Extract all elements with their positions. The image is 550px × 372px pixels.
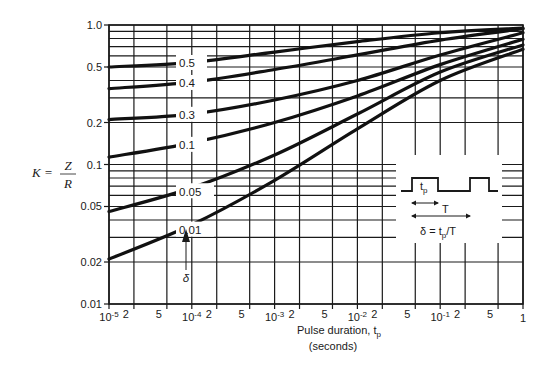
x-tick-label: 5	[487, 308, 493, 320]
x-tick-label: 5	[321, 308, 327, 320]
x-tick-label: 2	[206, 308, 212, 320]
y-tick-label: 0.5	[87, 61, 102, 73]
x-tick-label: 10-4	[182, 310, 202, 323]
transient-thermal-impedance-chart: 0.50.40.30.10.050.01 10-52510-42510-3251…	[0, 0, 550, 372]
x-tick-label: 10-5	[99, 310, 119, 323]
pulse-train-inset: tp T δ = tp/T	[396, 155, 502, 243]
delta-arrow-label: δ	[183, 272, 190, 284]
curve-label-delta-0.05: 0.05	[179, 186, 201, 198]
ylabel-z: Z	[64, 158, 72, 173]
x-tick-label: 2	[454, 308, 460, 320]
y-tick-label: 0.2	[87, 117, 102, 129]
x-tick-label: 5	[156, 308, 162, 320]
inset-period-label: T	[442, 203, 449, 215]
xlabel-line1: Pulse duration, tp	[297, 324, 382, 339]
curve-label-delta-0.3: 0.3	[179, 109, 195, 121]
ylabel-r: R	[63, 176, 72, 191]
x-tick-label: 5	[404, 308, 410, 320]
xlabel-line2: (seconds)	[309, 340, 357, 352]
x-tick-label: 2	[371, 308, 377, 320]
curve-label-delta-0.01: 0.01	[179, 224, 201, 236]
curve-label-delta-0.5: 0.5	[179, 57, 195, 69]
curve-label-delta-0.4: 0.4	[179, 77, 196, 89]
y-tick-label: 0.1	[87, 159, 102, 171]
y-tick-label: 0.01	[81, 298, 102, 310]
x-tick-label: 1	[520, 312, 526, 324]
x-tick-label: 5	[239, 308, 245, 320]
x-axis-label: Pulse duration, tp (seconds)	[297, 324, 382, 352]
y-tick-label: 0.02	[81, 256, 102, 268]
curve-label-delta-0.1: 0.1	[179, 139, 195, 151]
curve-labels: 0.50.40.30.10.050.01	[176, 55, 214, 237]
x-tick-label: 10-3	[265, 310, 285, 323]
x-axis-ticks: 10-52510-42510-32510-22510-1251	[99, 304, 526, 324]
ylabel-k: K =	[31, 165, 53, 180]
x-tick-label: 10-1	[431, 310, 451, 323]
x-tick-label: 10-2	[348, 310, 368, 323]
x-tick-label: 2	[288, 308, 294, 320]
y-tick-label: 1.0	[87, 19, 102, 31]
y-tick-label: 0.05	[81, 200, 102, 212]
y-axis-label: K = Z R	[31, 158, 76, 191]
y-axis-ticks: 1.00.50.20.10.050.020.01	[81, 19, 109, 310]
x-tick-label: 2	[123, 308, 129, 320]
